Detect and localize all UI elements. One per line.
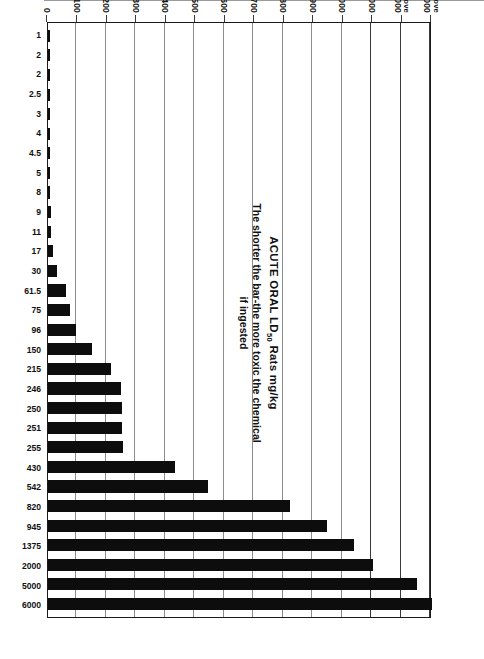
axis-tick-label: Above6000 — [423, 0, 440, 13]
bar-cell — [48, 555, 430, 575]
value-label-cell: 820 — [9, 497, 43, 517]
bar — [48, 245, 53, 257]
bar — [48, 89, 50, 101]
bar-cell — [48, 457, 430, 477]
bar — [48, 382, 121, 394]
value-label: 2.5 — [29, 89, 41, 99]
bar — [48, 108, 50, 120]
value-label-cell: 2000 — [9, 556, 43, 576]
value-label-cell: 8 — [9, 182, 43, 202]
value-label: 17 — [31, 246, 41, 256]
value-label: 6000 — [22, 600, 41, 610]
value-label: 30 — [31, 266, 41, 276]
value-label-cell: 3 — [9, 104, 43, 124]
value-label: 430 — [27, 463, 41, 473]
axis-tick-label: 700 — [249, 0, 259, 13]
bar — [48, 284, 66, 296]
value-label-cell: 1375 — [9, 536, 43, 556]
axis-tick-label: 1000 — [337, 0, 347, 13]
value-label-cell: 2 — [9, 64, 43, 84]
value-label-cell: 945 — [9, 517, 43, 537]
axis-tick — [371, 15, 372, 22]
bar — [48, 598, 432, 610]
bar-cell — [48, 144, 430, 164]
axis-tick — [431, 15, 432, 22]
value-label-cell: 9 — [9, 202, 43, 222]
value-label: 150 — [27, 345, 41, 355]
bar-cell — [48, 65, 430, 85]
bar-cell — [48, 340, 430, 360]
bar — [48, 128, 50, 140]
bar-cell — [48, 202, 430, 222]
bar-cell — [48, 261, 430, 281]
value-axis: 010020030040050060070080090010002000Abov… — [47, 0, 431, 22]
bar-cell — [48, 575, 430, 595]
value-label: 246 — [27, 384, 41, 394]
value-label: 255 — [27, 443, 41, 453]
axis-tick-label: 100 — [72, 0, 82, 13]
bar-cell — [48, 183, 430, 203]
value-label: 5 — [36, 168, 41, 178]
bar — [48, 226, 51, 238]
axis-tick-label: 0 — [42, 8, 52, 13]
value-label-cell: 96 — [9, 320, 43, 340]
value-label-cell: 542 — [9, 477, 43, 497]
value-label-cell: 150 — [9, 340, 43, 360]
bar-cell — [48, 594, 430, 614]
axis-tick-label: 400 — [160, 0, 170, 13]
value-label: 75 — [31, 305, 41, 315]
axis-tick — [342, 15, 343, 22]
value-label-cell: 1 — [9, 25, 43, 45]
bar-cell — [48, 104, 430, 124]
value-label: 4.5 — [29, 148, 41, 158]
value-label-cell: 5000 — [9, 576, 43, 596]
bar-cell — [48, 496, 430, 516]
value-label: 1375 — [22, 541, 41, 551]
bar-cell — [48, 398, 430, 418]
value-label: 215 — [27, 364, 41, 374]
value-label: 9 — [36, 207, 41, 217]
value-label: 945 — [27, 522, 41, 532]
value-label-cell: 6000 — [9, 595, 43, 615]
value-label: 250 — [27, 404, 41, 414]
axis-tick — [165, 15, 166, 22]
bar — [48, 578, 417, 590]
value-label: 3 — [36, 109, 41, 119]
bar-cell — [48, 124, 430, 144]
value-label-cell: 30 — [9, 261, 43, 281]
bar — [48, 520, 327, 532]
value-label: 2000 — [22, 561, 41, 571]
axis-tick-label: 2000 — [367, 0, 377, 13]
value-label-cell: 75 — [9, 300, 43, 320]
axis-tick-label: 800 — [278, 0, 288, 13]
value-label-cell: 17 — [9, 241, 43, 261]
value-label: 4 — [36, 128, 41, 138]
value-label: 2 — [36, 69, 41, 79]
value-label-cell: 11 — [9, 222, 43, 242]
bar — [48, 343, 92, 355]
bar-cell — [48, 535, 430, 555]
bar — [48, 539, 354, 551]
axis-tick-label: 900 — [308, 0, 318, 13]
value-label: 5000 — [22, 581, 41, 591]
bar-cell — [48, 516, 430, 536]
value-label: 96 — [31, 325, 41, 335]
value-label-cell: 251 — [9, 418, 43, 438]
value-label-cell: 2.5 — [9, 84, 43, 104]
bar-cell — [48, 320, 430, 340]
chart-stage: 010020030040050060070080090010002000Abov… — [0, 0, 484, 659]
value-label-cell: 4 — [9, 123, 43, 143]
bar-cell — [48, 163, 430, 183]
bar — [48, 559, 373, 571]
bar — [48, 304, 70, 316]
bar-cell — [48, 477, 430, 497]
axis-tick — [224, 15, 225, 22]
bar — [48, 30, 50, 42]
value-label-cell: 246 — [9, 379, 43, 399]
axis-tick — [194, 15, 195, 22]
value-label-cell: 61.5 — [9, 281, 43, 301]
value-label: 1 — [36, 30, 41, 40]
value-label: 61.5 — [24, 286, 41, 296]
bar — [48, 441, 123, 453]
bar — [48, 206, 51, 218]
